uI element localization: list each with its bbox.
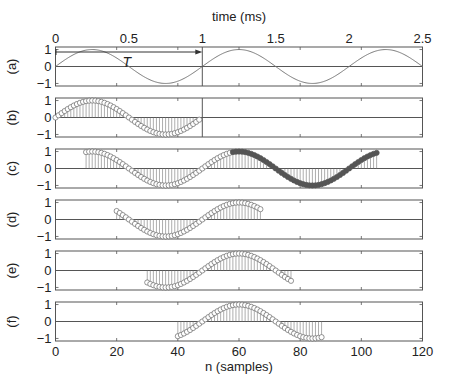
panel-label: (f) [4, 315, 19, 327]
top-tick-label: 2 [345, 31, 352, 46]
panel-a: −101(a)T [4, 42, 423, 91]
y-tick-label: 1 [44, 246, 51, 261]
bottom-tick-label: 40 [171, 344, 185, 359]
y-tick-label: −1 [37, 76, 52, 91]
panel-c: −101(c) [4, 144, 423, 193]
panel-label: (b) [4, 110, 19, 126]
panel-label: (c) [4, 161, 19, 176]
y-tick-label: 1 [44, 195, 51, 210]
bottom-tick-label: 80 [293, 344, 307, 359]
y-tick-label: 1 [44, 42, 51, 57]
panel-label: (e) [4, 263, 19, 279]
panel-b: −101(b) [4, 93, 423, 142]
bottom-tick-label: 60 [232, 344, 246, 359]
y-tick-label: 1 [44, 93, 51, 108]
panel-label: (a) [4, 59, 19, 75]
top-tick-label: 0 [52, 31, 59, 46]
y-tick-label: −1 [37, 280, 52, 295]
y-tick-label: 1 [44, 144, 51, 159]
figure: time (ms)00.511.522.5−101(a)T−101(b)−101… [0, 0, 455, 387]
y-tick-label: 0 [44, 263, 51, 278]
bottom-axis-title: n (samples) [205, 359, 273, 374]
top-tick-label: 2.5 [413, 31, 431, 46]
panel-f: −101(f) [4, 297, 423, 346]
bottom-tick-label: 120 [412, 344, 434, 359]
bottom-tick-label: 0 [52, 344, 59, 359]
top-tick-label: 1 [199, 31, 206, 46]
sample-marker [258, 207, 263, 212]
y-tick-label: −1 [37, 229, 52, 244]
top-tick-label: 1.5 [267, 31, 285, 46]
filled-sample-marker [374, 150, 379, 155]
panel-e: −101(e) [4, 246, 423, 295]
y-tick-label: 0 [44, 161, 51, 176]
y-tick-label: 0 [44, 59, 51, 74]
y-tick-label: −1 [37, 331, 52, 346]
panel-label: (d) [4, 212, 19, 228]
y-tick-label: 0 [44, 110, 51, 125]
y-tick-label: −1 [37, 127, 52, 142]
bottom-tick-label: 100 [350, 344, 372, 359]
y-tick-label: 0 [44, 212, 51, 227]
arrow-head-icon [195, 50, 202, 55]
sample-marker [288, 278, 293, 283]
y-tick-label: −1 [37, 178, 52, 193]
panel-d: −101(d) [4, 195, 423, 244]
period-annotation: T [123, 54, 133, 70]
y-tick-label: 1 [44, 297, 51, 312]
sample-marker [319, 335, 324, 340]
top-tick-label: 0.5 [120, 31, 138, 46]
bottom-tick-label: 20 [109, 344, 123, 359]
y-tick-label: 0 [44, 314, 51, 329]
top-axis-title: time (ms) [212, 9, 266, 24]
sample-marker [197, 117, 202, 122]
